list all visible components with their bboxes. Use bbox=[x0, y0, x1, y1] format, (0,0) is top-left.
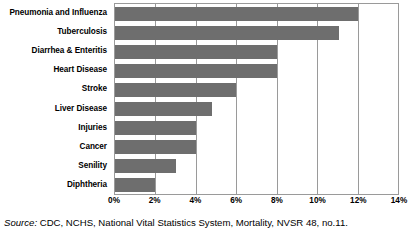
bar-chart-figure: Pneumonia and InfluenzaTuberculosisDiarr… bbox=[0, 0, 414, 235]
bar bbox=[115, 45, 277, 59]
bar bbox=[115, 159, 176, 173]
category-label: Stroke bbox=[0, 80, 111, 99]
bar bbox=[115, 64, 277, 78]
category-label: Heart Disease bbox=[0, 61, 111, 80]
bar bbox=[115, 121, 196, 135]
source-footnote: Source: CDC, NCHS, National Vital Statis… bbox=[4, 218, 348, 228]
source-label: Source: bbox=[4, 217, 37, 228]
source-citation: CDC, NCHS, National Vital Statistics Sys… bbox=[37, 217, 348, 228]
category-label: Cancer bbox=[0, 137, 111, 156]
category-label: Liver Disease bbox=[0, 99, 111, 118]
bar-row bbox=[115, 156, 398, 175]
chart-plot-wrapper: Pneumonia and InfluenzaTuberculosisDiarr… bbox=[0, 0, 414, 200]
bar-row bbox=[115, 61, 398, 80]
bar bbox=[115, 102, 212, 116]
bar-row bbox=[115, 80, 398, 99]
x-tick-label: 2% bbox=[149, 197, 161, 205]
bar bbox=[115, 178, 155, 192]
bar-row bbox=[115, 4, 398, 23]
x-axis-tick-labels: 0%2%4%6%8%10%12%14% bbox=[114, 197, 399, 211]
category-label: Diarrhea & Enteritis bbox=[0, 41, 111, 60]
bar-row bbox=[115, 175, 398, 194]
category-axis-labels: Pneumonia and InfluenzaTuberculosisDiarr… bbox=[0, 3, 111, 195]
bar-row bbox=[115, 23, 398, 42]
bar-row bbox=[115, 99, 398, 118]
category-label: Senility bbox=[0, 157, 111, 176]
x-tick-label: 10% bbox=[309, 197, 325, 205]
bar-series bbox=[115, 4, 398, 194]
category-label: Tuberculosis bbox=[0, 22, 111, 41]
bar-row bbox=[115, 42, 398, 61]
x-tick-label: 0% bbox=[108, 197, 120, 205]
x-tick-label: 12% bbox=[350, 197, 366, 205]
bar bbox=[115, 7, 358, 21]
bar bbox=[115, 140, 196, 154]
category-label: Pneumonia and Influenza bbox=[0, 3, 111, 22]
category-label: Injuries bbox=[0, 118, 111, 137]
bar bbox=[115, 83, 236, 97]
plot-area bbox=[114, 3, 399, 195]
bar-row bbox=[115, 137, 398, 156]
x-tick-label: 8% bbox=[271, 197, 283, 205]
x-tick-label: 4% bbox=[190, 197, 202, 205]
x-tick-label: 14% bbox=[391, 197, 407, 205]
x-tick-label: 6% bbox=[230, 197, 242, 205]
category-label: Diphtheria bbox=[0, 176, 111, 195]
bar-row bbox=[115, 118, 398, 137]
bar bbox=[115, 26, 339, 40]
